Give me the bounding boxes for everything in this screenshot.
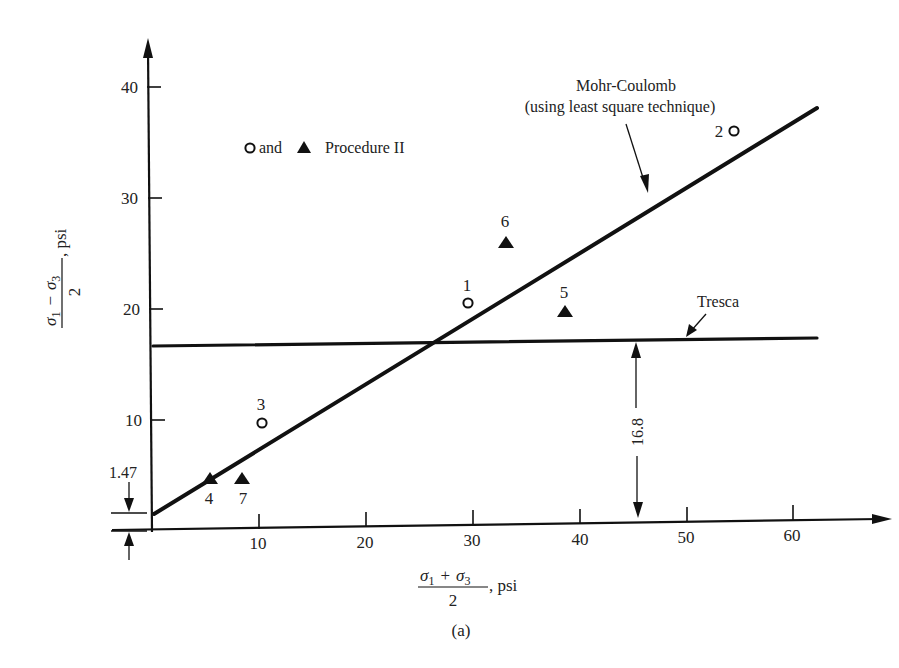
data-point-1	[463, 298, 472, 307]
x-label-denominator: 2	[449, 591, 458, 610]
y-tick-labels: 40 30 20 10	[121, 78, 142, 430]
dim-arrow-up-icon	[631, 342, 641, 358]
point-label-4: 4	[205, 489, 214, 508]
x-tick-label: 60	[784, 526, 801, 545]
x-axis	[112, 519, 880, 530]
x-tick-label: 30	[464, 531, 481, 550]
x-tick-label: 50	[678, 528, 695, 547]
mohr-coulomb-pointer-arrow-icon	[640, 174, 649, 193]
dim-arrow-down-icon	[124, 498, 134, 512]
point-label-3: 3	[257, 395, 266, 414]
dim-arrow-down-icon	[633, 502, 643, 518]
y-tick-label: 10	[125, 411, 142, 430]
x-tick-labels: 10 20 30 40 50 60	[250, 526, 801, 553]
mohr-coulomb-tresca-chart: 40 30 20 10 10 20 30 40 50 60 Mohr-Coulo…	[0, 0, 899, 668]
y-axis-arrow-icon	[143, 38, 153, 58]
legend-and: and	[259, 139, 282, 156]
series-open-circles: 1 2 3	[257, 122, 739, 428]
y-tick-label: 40	[121, 78, 138, 97]
dimension-16-8-label: 16.8	[629, 418, 646, 446]
dimension-1-47	[111, 482, 147, 560]
data-point-5	[557, 305, 573, 317]
x-axis-label: σ1+σ3 2 , psi	[418, 566, 518, 610]
x-axis-arrow-icon	[872, 514, 892, 524]
mohr-coulomb-sublabel: (using least square technique)	[525, 98, 716, 116]
axes	[112, 38, 892, 532]
point-label-1: 1	[463, 276, 472, 295]
data-point-6	[498, 236, 514, 248]
x-tick-label: 40	[572, 530, 589, 549]
legend-procedure: Procedure II	[325, 139, 405, 156]
x-label-numerator: σ1+σ3	[420, 566, 470, 588]
filled-triangle-marker-icon	[297, 141, 311, 153]
y-axis	[148, 48, 152, 532]
series-filled-triangles: 4 5 6 7	[202, 212, 573, 508]
data-point-7	[234, 472, 250, 484]
y-axis-label: σ1−σ3 2 , psi	[41, 228, 84, 328]
data-point-3	[257, 418, 266, 427]
x-label-unit: , psi	[489, 576, 518, 595]
y-label-unit: , psi	[51, 228, 70, 257]
y-label-numerator: σ1−σ3	[41, 276, 63, 326]
point-label-7: 7	[239, 489, 248, 508]
x-tick-label: 10	[250, 534, 267, 553]
figure-caption: (a)	[452, 621, 471, 640]
x-tick-label: 20	[357, 533, 374, 552]
dimension-1-47-label: 1.47	[109, 464, 137, 481]
mohr-coulomb-line	[154, 108, 817, 514]
data-point-2	[729, 126, 738, 135]
point-label-6: 6	[501, 212, 510, 231]
dim-arrow-up-icon	[124, 532, 134, 546]
y-tick-label: 30	[121, 189, 138, 208]
point-label-2: 2	[715, 122, 724, 141]
tresca-line	[153, 338, 817, 346]
mohr-coulomb-label: Mohr-Coulomb	[576, 77, 676, 94]
mohr-coulomb-pointer	[626, 124, 645, 184]
y-label-denominator: 2	[65, 288, 84, 297]
y-tick-label: 20	[123, 300, 140, 319]
open-circle-marker-icon	[245, 143, 254, 152]
point-label-5: 5	[560, 283, 569, 302]
tresca-label: Tresca	[697, 293, 739, 310]
legend: and Procedure II	[245, 139, 404, 156]
